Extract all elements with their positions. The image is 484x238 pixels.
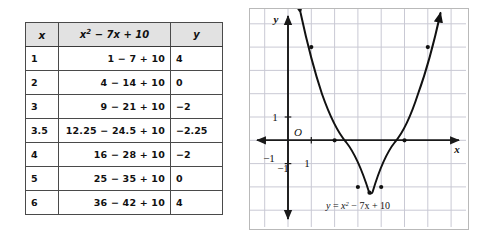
plotted-points <box>309 45 430 195</box>
column-header-x: x <box>26 23 59 47</box>
value-table-panel: x x2 − 7x + 10 y 1 1 − 7 + 10 4 2 4 − 14… <box>25 22 222 206</box>
x-axis-label: x <box>453 143 460 155</box>
equation-annotation: y = x2 − 7x + 10 <box>325 200 390 212</box>
point-x3 <box>356 185 360 189</box>
tick-label-x-neg-one: −1 <box>263 152 275 164</box>
header-expr-rest: − 7x + 10 <box>91 30 149 41</box>
cell-x: 1 <box>26 47 59 71</box>
cell-y: 4 <box>171 191 223 215</box>
point-x5 <box>402 138 406 142</box>
cell-y: 4 <box>171 47 223 71</box>
cell-expression: 36 − 42 + 10 <box>59 191 171 215</box>
cell-expression: 25 − 35 + 10 <box>59 167 171 191</box>
table-row: 5 25 − 35 + 10 0 <box>26 167 223 191</box>
table-row: 3.5 12.25 − 24.5 + 10 −2.25 <box>26 119 223 143</box>
eq-equals: = <box>330 200 341 211</box>
y-axis-label: y <box>272 13 279 25</box>
origin-label: O <box>294 126 302 138</box>
tick-label-y-neg-one: −1 <box>277 162 289 174</box>
parabola-graph-panel: y x O 1 1 −1 −1 y = x2 − 7x + 10 <box>249 8 469 230</box>
cell-y: 0 <box>171 71 223 95</box>
cell-y: −2.25 <box>171 119 223 143</box>
point-x2 <box>333 138 337 142</box>
point-x4 <box>379 185 383 189</box>
point-x6 <box>426 45 430 49</box>
cell-expression: 1 − 7 + 10 <box>59 47 171 71</box>
parabola-svg: y x O 1 1 −1 −1 y = x2 − 7x + 10 <box>250 9 466 227</box>
cell-x: 2 <box>26 71 59 95</box>
table-header-row: x x2 − 7x + 10 y <box>26 23 223 47</box>
column-header-expression: x2 − 7x + 10 <box>59 23 171 47</box>
cell-expression: 9 − 21 + 10 <box>59 95 171 119</box>
cell-y: −2 <box>171 143 223 167</box>
column-header-y: y <box>171 23 223 47</box>
table-row: 6 36 − 42 + 10 4 <box>26 191 223 215</box>
cell-x: 3 <box>26 95 59 119</box>
cell-expression: 12.25 − 24.5 + 10 <box>59 119 171 143</box>
tick-label-x-one: 1 <box>304 157 310 169</box>
table-row: 2 4 − 14 + 10 0 <box>26 71 223 95</box>
table-row: 4 16 − 28 + 10 −2 <box>26 143 223 167</box>
cell-y: 0 <box>171 167 223 191</box>
value-table: x x2 − 7x + 10 y 1 1 − 7 + 10 4 2 4 − 14… <box>25 22 223 215</box>
point-vertex <box>367 191 371 195</box>
cell-x: 3.5 <box>26 119 59 143</box>
eq-rest: − 7x + 10 <box>349 200 390 211</box>
cell-x: 5 <box>26 167 59 191</box>
cell-expression: 4 − 14 + 10 <box>59 71 171 95</box>
parabola-curve <box>301 13 441 194</box>
tick-label-y-one: 1 <box>272 111 278 123</box>
table-row: 3 9 − 21 + 10 −2 <box>26 95 223 119</box>
cell-expression: 16 − 28 + 10 <box>59 143 171 167</box>
cell-x: 4 <box>26 143 59 167</box>
cell-y: −2 <box>171 95 223 119</box>
cell-x: 6 <box>26 191 59 215</box>
table-body: 1 1 − 7 + 10 4 2 4 − 14 + 10 0 3 9 − 21 … <box>26 47 223 215</box>
point-x1 <box>309 45 313 49</box>
table-row: 1 1 − 7 + 10 4 <box>26 47 223 71</box>
